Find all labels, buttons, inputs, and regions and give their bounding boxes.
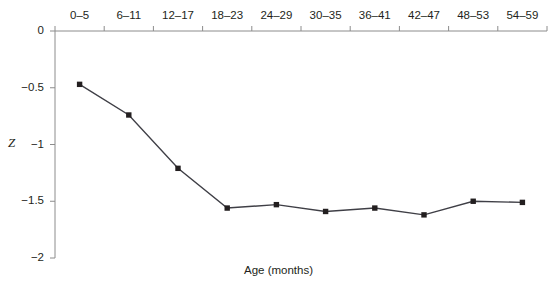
x-axis-tick-label: 54–59 <box>498 10 547 22</box>
y-axis-tick-label: 0 <box>0 25 44 37</box>
data-point-markers <box>77 82 525 218</box>
data-point-marker <box>520 200 525 205</box>
axes-group <box>55 31 547 258</box>
x-axis-tick-label: 42–47 <box>399 10 448 22</box>
x-axis-tick-label: 0–5 <box>55 10 104 22</box>
x-axis-tick-label: 12–17 <box>153 10 202 22</box>
data-point-marker <box>421 212 426 217</box>
y-axis-ticks <box>50 31 55 258</box>
data-point-marker <box>225 205 230 210</box>
x-axis-tick-label: 6–11 <box>104 10 153 22</box>
chart-plot-area <box>0 0 557 293</box>
x-axis-tick-label: 18–23 <box>203 10 252 22</box>
data-series-line <box>80 84 523 215</box>
x-axis-tick-label: 30–35 <box>301 10 350 22</box>
data-point-marker <box>126 112 131 117</box>
data-point-marker <box>471 199 476 204</box>
y-axis-title: Z <box>8 135 15 151</box>
y-axis-tick-label: −2 <box>0 252 44 264</box>
y-axis-tick-label: −1 <box>0 139 44 151</box>
x-axis-tick-label: 48–53 <box>449 10 498 22</box>
data-point-marker <box>372 205 377 210</box>
x-axis-ticks <box>55 26 547 31</box>
x-axis-tick-label: 24–29 <box>252 10 301 22</box>
data-point-marker <box>274 202 279 207</box>
y-axis-tick-label: −0.5 <box>0 82 44 94</box>
data-point-marker <box>323 209 328 214</box>
y-axis-tick-label: −1.5 <box>0 195 44 207</box>
data-point-marker <box>77 82 82 87</box>
x-axis-title: Age (months) <box>0 264 557 276</box>
data-point-marker <box>175 166 180 171</box>
chart-container: 0–56–1112–1718–2324–2930–3536–4142–4748–… <box>0 0 557 293</box>
x-axis-tick-label: 36–41 <box>350 10 399 22</box>
